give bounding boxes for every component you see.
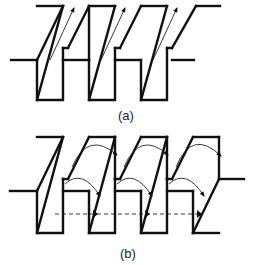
diagram-figure: (a) [0,0,258,265]
panel-b: (b) [10,137,244,261]
block-1 [37,6,89,100]
arrow-curved-mid-1 [65,178,100,196]
arrow-curved-mid-2 [117,178,152,196]
panel-label-a: (a) [118,108,134,123]
block-b-4 [193,137,244,233]
block-2 [89,6,141,100]
block-3 [141,6,196,100]
panel-a: (a) [11,6,220,123]
arrow-curved-mid-3 [169,178,204,196]
panel-label-b: (b) [120,246,136,261]
